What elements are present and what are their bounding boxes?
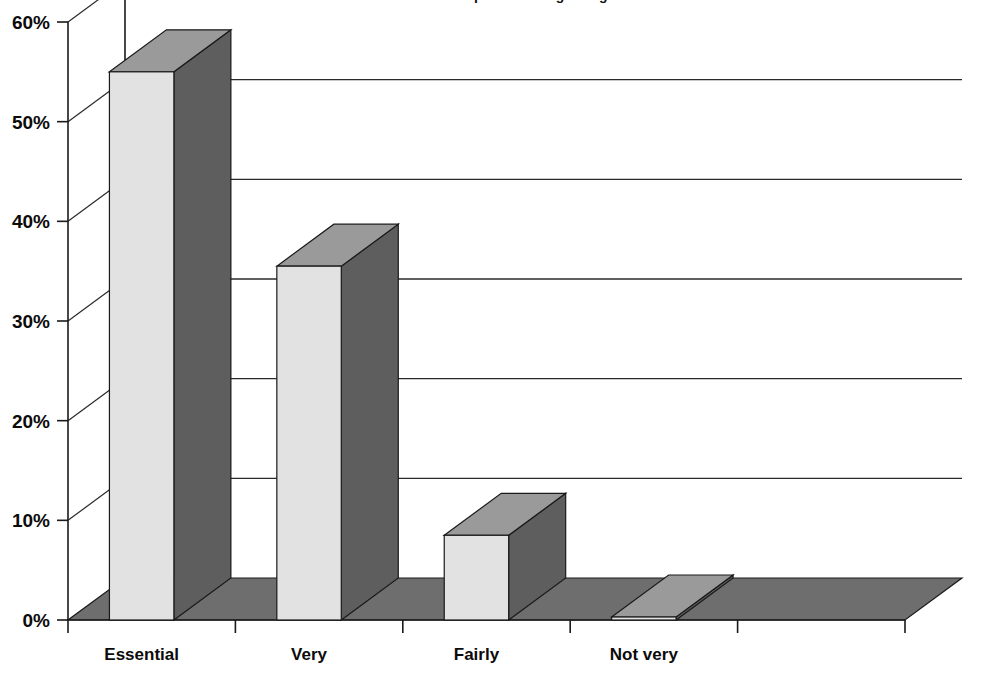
bar-front-face <box>109 72 173 620</box>
x-axis-labels: EssentialVeryFairlyNot very <box>104 645 678 664</box>
bar-column <box>277 224 398 620</box>
x-tick-label: Essential <box>104 645 179 664</box>
y-tick-label: 50% <box>12 112 50 133</box>
x-tick-label: Not very <box>610 645 679 664</box>
bar-front-face <box>444 535 508 620</box>
y-tick-label: 20% <box>12 411 50 432</box>
bar-front-face <box>277 266 341 620</box>
gridline-depth-connector <box>68 0 125 22</box>
y-tick-label: 0% <box>23 610 51 631</box>
y-tick-label: 40% <box>12 211 50 232</box>
bar-chart-figure: ...find it as important as agreeing 0%10… <box>0 0 989 680</box>
bar-column <box>109 30 230 620</box>
bar-side-face <box>341 224 398 620</box>
bar-front-face <box>612 617 676 620</box>
bar-side-face <box>174 30 231 620</box>
bars-group <box>109 30 733 620</box>
y-axis-labels: 0%10%20%30%40%50%60% <box>12 12 50 631</box>
x-tick-label: Fairly <box>454 645 500 664</box>
y-tick-label: 10% <box>12 510 50 531</box>
x-tick-label: Very <box>291 645 327 664</box>
y-tick-label: 30% <box>12 311 50 332</box>
chart-canvas: 0%10%20%30%40%50%60% EssentialVeryFairly… <box>0 0 989 680</box>
y-tick-label: 60% <box>12 12 50 33</box>
